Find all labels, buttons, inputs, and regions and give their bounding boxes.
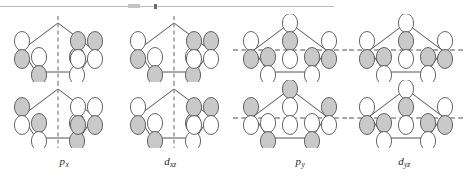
orbital-symmetry-figure: px dxz py dyz [0,0,464,178]
panel-dyz-top [348,14,464,82]
panel-dxz-bottom [116,80,232,148]
label-px: px [44,156,84,167]
label-dyz: dyz [384,156,424,167]
panel-px-top [0,14,116,82]
scan-artifact-line [0,4,334,9]
label-py-sub: y [301,160,304,169]
panel-py-top [232,14,348,82]
panel-dxz-top [116,14,232,82]
label-dyz-sub: yz [404,160,410,169]
label-dxz-base: d [164,155,170,167]
label-py: py [280,156,320,167]
label-dyz-base: d [398,155,404,167]
panel-dyz-bottom [348,80,464,148]
label-dxz: dxz [150,156,190,167]
label-dxz-sub: xz [170,160,176,169]
panel-py-bottom [232,80,348,148]
label-px-sub: x [65,160,68,169]
panel-px-bottom [0,80,116,148]
